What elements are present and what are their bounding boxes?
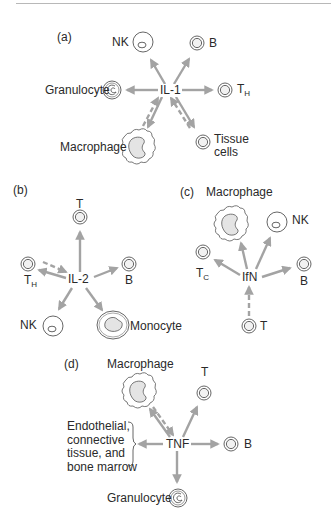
th-label: TH [237,83,250,100]
granulocyte-label: Granulocyte [107,492,172,505]
cytokine-ifn: IfN [241,271,258,284]
t-cell-icon [73,210,87,224]
th-cell-icon [218,83,232,97]
nk-label: NK [292,214,309,227]
macrophage-icon [122,373,156,408]
b-cell-icon [297,257,311,271]
macrophage-label: Macrophage [107,358,174,371]
b-cell-icon [190,36,204,50]
panel-d-label: (d) [64,358,79,371]
panel-a-label: (a) [57,31,72,44]
endothelial-label: Endothelial, connective tissue, and bone… [67,420,137,474]
nk-cell-icon [43,316,63,336]
cytokine-il2: IL-2 [67,273,90,286]
b-label: B [300,275,308,288]
cytokine-tnf: TNF [165,438,190,451]
t-label: T [201,366,208,379]
t-label: T [260,320,267,333]
th-label: TH [24,274,37,291]
t-cell-icon [197,386,211,400]
granulocyte-label: Granulocyte [45,84,110,97]
macrophage-icon [214,206,248,241]
macrophage-label: Macrophage [60,141,127,154]
cytokine-il1: IL-1 [159,84,182,97]
monocyte-icon [97,311,129,339]
nk-label: NK [112,36,129,49]
nk-label: NK [20,319,37,332]
nk-cell-icon [267,212,287,232]
t-cell-icon [242,319,256,333]
panel-c-label: (c) [180,186,194,199]
t-label: T [76,198,83,211]
b-label: B [125,274,133,287]
th-cell-icon [21,257,35,271]
monocyte-label: Monocyte [130,320,182,333]
panel-b-arrows [39,232,117,310]
tissue-cell-icon [196,135,210,149]
nk-cell-icon [133,32,153,52]
tc-cell-icon [196,245,210,259]
tc-label: TC [196,267,209,284]
macrophage-label: Macrophage [206,186,273,199]
tissue-cells-label: Tissuecells [214,133,249,159]
b-cell-icon [122,257,136,271]
b-cell-icon [224,437,238,451]
panel-b-label: (b) [13,184,28,197]
b-label: B [209,37,217,50]
b-label: B [244,438,252,451]
